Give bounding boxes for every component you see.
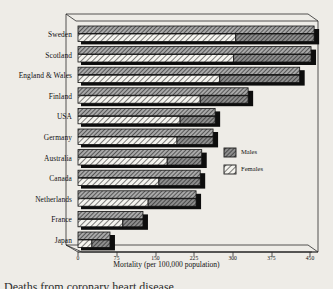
- males-swatch: [224, 148, 236, 157]
- bar-females: [78, 137, 177, 144]
- bar-males-extension: [92, 240, 110, 247]
- bar-females: [78, 178, 159, 185]
- bar-males: [78, 150, 202, 157]
- bar-males-extension: [180, 116, 215, 123]
- category-label: Australia: [44, 154, 72, 163]
- bar-group: [78, 211, 148, 229]
- bar-group: [78, 232, 115, 250]
- bar-males: [78, 67, 300, 74]
- bar-males-extension: [234, 55, 311, 62]
- category-label: Canada: [49, 174, 72, 183]
- bar-females: [78, 116, 180, 123]
- category-label: USA: [57, 112, 72, 121]
- bar-males: [78, 129, 213, 136]
- bar-males-extension: [159, 178, 200, 185]
- bar-males: [78, 170, 200, 177]
- bar-males-extension: [220, 75, 300, 82]
- bar-males-extension: [167, 158, 202, 165]
- x-axis-title: Mortality (per 100,000 population): [0, 260, 333, 269]
- category-label: Japan: [55, 236, 72, 245]
- bar-group: [78, 170, 205, 188]
- bar-females: [78, 55, 234, 62]
- bar-group: [78, 191, 201, 209]
- category-label: Germany: [44, 133, 72, 142]
- bar-males: [78, 108, 215, 115]
- bar-females: [78, 219, 123, 226]
- bar-males: [78, 47, 311, 54]
- category-label: Scotland: [45, 51, 72, 60]
- category-label: England & Wales: [19, 71, 72, 80]
- bar-females: [78, 96, 200, 103]
- bar-males-extension: [200, 96, 248, 103]
- category-label: Sweden: [48, 30, 72, 39]
- bar-females: [78, 199, 148, 206]
- legend-label-females: Females: [241, 165, 263, 172]
- bar-females: [78, 158, 167, 165]
- bar-females: [78, 240, 92, 247]
- bar-males-extension: [148, 199, 196, 206]
- bar-males-extension: [123, 219, 143, 226]
- females-swatch: [224, 165, 236, 174]
- category-label: Finland: [49, 92, 72, 101]
- bar-males-extension: [177, 137, 213, 144]
- bar-females: [78, 75, 220, 82]
- category-label: France: [51, 215, 72, 224]
- bar-group: [78, 108, 220, 126]
- bar-group: [78, 150, 207, 168]
- bar-males: [78, 26, 314, 33]
- bar-group: [78, 129, 218, 147]
- bar-females: [78, 34, 236, 41]
- bar-group: [78, 47, 316, 65]
- bar-males: [78, 88, 248, 95]
- bar-males: [78, 211, 143, 218]
- bar-group: [78, 88, 253, 106]
- bar-males: [78, 232, 110, 239]
- category-label: Netherlands: [35, 195, 72, 204]
- bar-males: [78, 191, 196, 198]
- figure-caption: Deaths from coronary heart disease: [4, 280, 174, 289]
- bar-males-extension: [236, 34, 314, 41]
- legend-label-males: Males: [241, 148, 257, 155]
- bar-group: [78, 67, 305, 85]
- bar-group: [78, 26, 319, 44]
